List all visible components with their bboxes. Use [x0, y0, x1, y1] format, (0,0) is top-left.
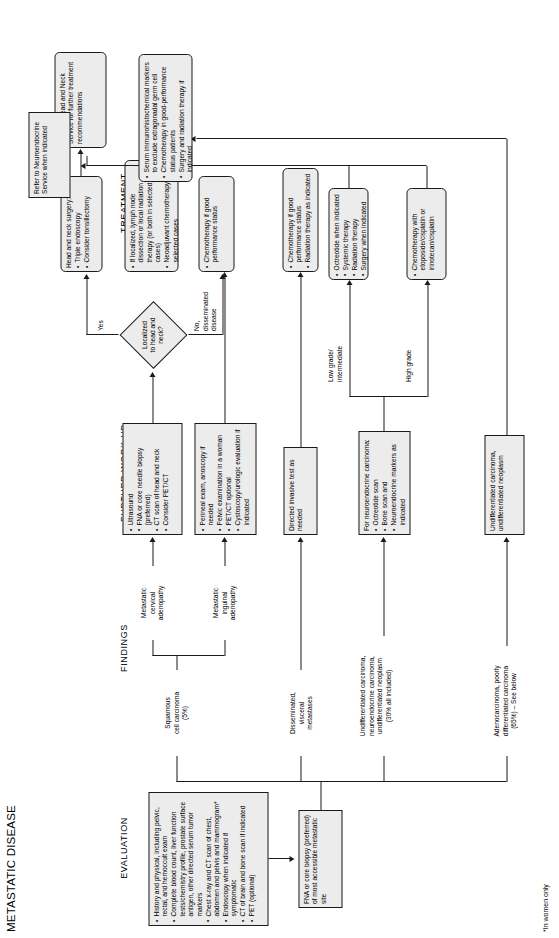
- decision-localized-head-neck: Localized to head and neck?: [118, 300, 188, 370]
- connector-squamous-spine: [152, 655, 224, 656]
- connector-refer-stub: [86, 156, 87, 166]
- node-initial-evaluation: History and physical, including pelvic, …: [148, 792, 268, 926]
- workup-item: Pelvic examination in a woman: [215, 427, 223, 531]
- treatment-item: Surgery when indicated: [359, 192, 367, 276]
- workup-item: Ultrasound: [126, 427, 134, 531]
- arrowhead: [503, 537, 509, 542]
- connector-refer-spine: [86, 165, 426, 166]
- connector-biopsy-spine: [176, 781, 506, 782]
- node-workup-neuroendocrine: For neuroendocrine carcinoma: Octreotide…: [358, 431, 410, 535]
- eval-item: CT of brain and bone scan if indicated: [238, 796, 246, 922]
- workup-item: FNA or core needle biopsy (preferred): [135, 427, 152, 531]
- connector-inguinal-to-treatment: [224, 277, 225, 423]
- node-workup-undifferentiated: Undifferentiated carcinoma, undifferenti…: [484, 435, 524, 535]
- eval-item: Endoscopy when indicated if symptomatic: [221, 796, 238, 922]
- eval-item: PET (optional): [247, 796, 255, 922]
- connector-inguinal-to-workup: [224, 542, 225, 566]
- connector-cervical-to-decision: [152, 377, 153, 423]
- workup-item: Cystoscopy/urologic evaluation if indica…: [233, 427, 250, 531]
- connector-low-to-refer: [348, 166, 349, 188]
- workup-item: Neuroendocrine markers as indicated: [389, 435, 406, 531]
- node-treatment-high-grade: Chemotherapy with etoposide/cisplatin or…: [406, 188, 446, 280]
- connector-undiff-spine: [196, 138, 506, 139]
- connector-undiff-to-treatment: [506, 139, 507, 435]
- node-treatment-refer-neuroendocrine: Refer to Neuroendocrine Service when ind…: [28, 112, 70, 198]
- treatment-item: Radiation therapy: [350, 192, 358, 276]
- column-header-findings: FINDINGS: [118, 598, 128, 698]
- connector-cervical-to-workup: [152, 542, 153, 566]
- finding-adenocarcinoma: Adenocarcinoma, poorly differentiated ca…: [492, 646, 518, 756]
- branch-label-high-grade: High grade: [404, 320, 413, 382]
- treatment-item: Systemic therapy: [341, 192, 349, 276]
- treatment-item: Chemotherapy if good performance status: [286, 172, 303, 268]
- eval-item: Chest x-ray and CT scan of chest, abdome…: [204, 796, 221, 922]
- workup-text: Undifferentiated carcinoma, undifferenti…: [488, 439, 505, 531]
- node-treatment-disseminated: Chemotherapy if good performance status …: [282, 168, 318, 272]
- treatment-item: Triple endoscopy: [73, 180, 81, 268]
- arrowhead: [77, 149, 83, 154]
- connector-low-grade: [349, 285, 350, 397]
- connector-yes-horizontal: [86, 301, 87, 335]
- connector-to-inguinal: [224, 640, 225, 656]
- arrowhead: [221, 272, 227, 277]
- treatment-item: Serum immunohistochemical markers to exc…: [142, 58, 159, 178]
- connector-grade-spine: [349, 396, 427, 397]
- arrowhead: [424, 280, 430, 285]
- arrowhead: [80, 163, 85, 169]
- connector-decision-yes: [86, 334, 118, 335]
- decision-label: Localized to head and neck?: [140, 305, 165, 365]
- arrowhead: [289, 856, 294, 862]
- connector-to-disseminated: [300, 756, 301, 782]
- finding-squamous-cell-carcinoma: Squamous cell carcinoma (5%): [163, 670, 189, 756]
- footnote: *In women only: [541, 884, 548, 932]
- connector-neuro-out: [383, 397, 384, 431]
- arrowhead: [297, 537, 303, 542]
- finding-metastatic-cervical-adenopathy: Metastatic cervical adenopathy: [139, 566, 165, 640]
- branch-label-low-grade: Low grade/ intermediate: [326, 320, 343, 382]
- connector-high-grade: [427, 285, 428, 397]
- node-workup-cervical: Ultrasound FNA or core needle biopsy (pr…: [122, 423, 182, 535]
- arrowhead: [149, 372, 155, 377]
- arrowhead: [297, 272, 303, 277]
- arrowhead: [380, 537, 386, 542]
- arrowhead: [346, 280, 352, 285]
- page-title: METASTATIC DISEASE: [4, 805, 16, 932]
- node-workup-disseminated: Directed invasive test as needed: [283, 447, 317, 535]
- treatment-item: Chemotherapy with etoposide/cisplatin or…: [410, 192, 435, 276]
- connector-decision-no: [188, 334, 222, 335]
- connector-to-adenocarcinoma: [506, 756, 507, 782]
- connector-biopsy-out: [320, 782, 321, 810]
- connector-adeno-to-workup: [506, 542, 507, 646]
- connector-disseminated-to-workup: [300, 542, 301, 670]
- workup-item: PET/CT optional: [224, 427, 232, 531]
- workup-item: Octreotide scan: [371, 435, 379, 531]
- connector-to-squamous: [176, 756, 177, 782]
- arrowhead: [221, 537, 227, 542]
- node-fna-core-biopsy: FNA or core biopsy (preferred) of most a…: [298, 810, 342, 908]
- connector-squamous-split: [176, 656, 177, 670]
- column-header-evaluation: EVALUATION: [118, 798, 128, 898]
- treatment-item: Surgery and radiation therapy if indicat…: [177, 58, 194, 178]
- node-treatment-chemo-good-ps: Chemotherapy if good performance status: [198, 176, 234, 272]
- arrowhead: [149, 537, 155, 542]
- branch-label-yes: Yes: [96, 301, 105, 331]
- treatment-item: Chemotherapy in good-performance status …: [159, 58, 176, 178]
- workup-item: CT scan of head and neck: [152, 427, 160, 531]
- workup-text: Directed invasive test as needed: [287, 451, 304, 531]
- treatment-item: Chemotherapy if good performance status: [202, 180, 219, 268]
- workup-item: Bone scan and: [380, 435, 388, 531]
- treatment-item: Consider tonsillectomy: [82, 180, 90, 268]
- node-treatment-low-grade: Octreotide when indicated Systemic thera…: [328, 188, 368, 280]
- workup-item: Perineal exam, anoscopy if needed: [198, 427, 215, 531]
- connector-no-to-chemo: [222, 279, 223, 301]
- treatment-item: Octreotide when indicated: [332, 192, 340, 276]
- eval-item: History and physical, including pelvic, …: [152, 796, 169, 922]
- connector-to-undifferentiated: [383, 756, 384, 782]
- treatment-text: Refer to Neuroendocrine Service when ind…: [32, 116, 49, 194]
- workup-header: For neuroendocrine carcinoma:: [362, 435, 370, 531]
- connector-disseminated-to-treatment: [300, 277, 301, 447]
- connector-to-cervical: [152, 640, 153, 656]
- connector-undiff-to-workup: [383, 542, 384, 636]
- flowchart-canvas: METASTATIC DISEASE *In women only EVALUA…: [0, 0, 559, 938]
- finding-undifferentiated-carcinoma: Undifferentiated carcinoma, neuroendocri…: [358, 636, 392, 756]
